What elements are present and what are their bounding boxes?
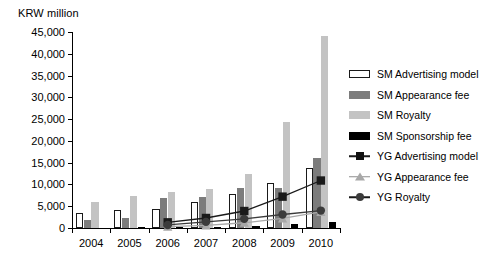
legend-item-label: SM Royalty — [377, 110, 431, 121]
y-tick-label: 20,000 — [31, 135, 65, 147]
x-tick — [187, 228, 188, 233]
x-tick-label: 2008 — [232, 237, 256, 249]
y-tick-label: 25,000 — [31, 113, 65, 125]
line-marker — [202, 218, 210, 226]
legend-marker-circle-icon — [356, 193, 364, 201]
x-tick-label: 2004 — [79, 237, 103, 249]
x-tick — [340, 228, 341, 233]
legend-item[interactable]: SM Appearance fee — [348, 85, 482, 106]
x-tick-label: 2006 — [155, 237, 179, 249]
x-tick-label: 2010 — [309, 237, 333, 249]
legend-key-icon — [348, 85, 372, 105]
x-tick-label: 2007 — [194, 237, 218, 249]
y-tick-label: 30,000 — [31, 91, 65, 103]
legend-swatch-icon — [349, 111, 370, 119]
line-series-overlay — [72, 32, 340, 228]
line-marker — [278, 210, 286, 218]
y-tick-label: 15,000 — [31, 157, 65, 169]
legend-item[interactable]: YG Appearance fee — [348, 167, 482, 188]
x-tick — [302, 228, 303, 233]
legend-item-label: YG Appearance fee — [377, 172, 469, 183]
legend-marker-triangle-icon — [355, 172, 365, 180]
legend-key-icon — [348, 167, 372, 187]
y-tick-label: 45,000 — [31, 26, 65, 38]
legend-item[interactable]: YG Royalty — [348, 187, 482, 208]
x-tick — [263, 228, 264, 233]
legend-item-label: YG Royalty — [377, 192, 430, 203]
plot-area: 05,00010,00015,00020,00025,00030,00035,0… — [72, 32, 340, 228]
chart-figure: KRW million 05,00010,00015,00020,00025,0… — [0, 0, 484, 265]
y-tick-label: 35,000 — [31, 70, 65, 82]
legend-item-label: YG Advertising model — [377, 151, 478, 162]
x-tick — [225, 228, 226, 233]
x-tick — [149, 228, 150, 233]
line-marker — [317, 176, 325, 184]
legend-item[interactable]: SM Advertising model — [348, 64, 482, 85]
y-axis-unit-label: KRW million — [18, 7, 79, 19]
legend-marker-square-icon — [356, 152, 364, 160]
y-tick-label: 5,000 — [37, 200, 65, 212]
legend-item[interactable]: YG Advertising model — [348, 146, 482, 167]
chart-legend: SM Advertising modelSM Appearance feeSM … — [348, 64, 482, 208]
legend-item-label: SM Sponsorship fee — [377, 131, 472, 142]
y-tick-label: 0 — [59, 222, 65, 234]
line-marker — [278, 192, 286, 200]
legend-swatch-icon — [349, 70, 370, 78]
line-marker — [240, 207, 248, 215]
y-tick-label: 40,000 — [31, 48, 65, 60]
y-tick-label: 10,000 — [31, 178, 65, 190]
legend-key-icon — [348, 64, 372, 84]
x-tick-label: 2009 — [270, 237, 294, 249]
legend-key-icon — [348, 105, 372, 125]
line-marker — [317, 206, 325, 214]
legend-item-label: SM Advertising model — [377, 69, 479, 80]
legend-key-icon — [348, 187, 372, 207]
x-tick — [110, 228, 111, 233]
line-marker — [240, 215, 248, 223]
legend-swatch-icon — [349, 132, 370, 140]
x-tick-label: 2005 — [117, 237, 141, 249]
legend-item-label: SM Appearance fee — [377, 90, 469, 101]
legend-key-icon — [348, 126, 372, 146]
x-tick — [72, 228, 73, 233]
line-marker — [164, 221, 172, 229]
legend-item[interactable]: SM Royalty — [348, 105, 482, 126]
legend-key-icon — [348, 146, 372, 166]
legend-swatch-icon — [349, 91, 370, 99]
legend-item[interactable]: SM Sponsorship fee — [348, 126, 482, 147]
